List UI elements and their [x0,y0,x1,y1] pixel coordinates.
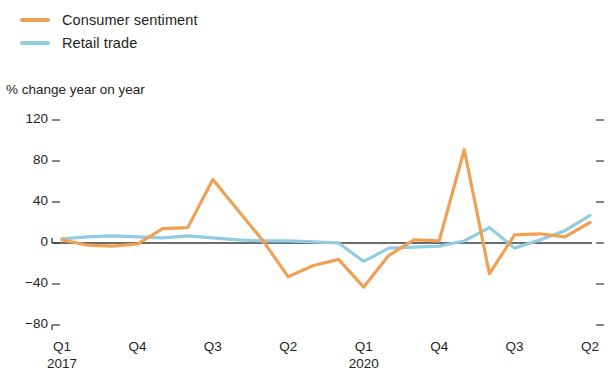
plot-area: 12080400−40−80 Q12017Q4Q3Q2Q12020Q4Q3Q2 [0,0,608,378]
x-tick-year-label: 2017 [47,356,77,371]
chart-canvas [0,0,608,378]
x-tick-label: Q4 [128,339,146,354]
y-tick-label: −80 [4,316,48,331]
y-tick-label: 40 [4,193,48,208]
x-tick-year-label: 2020 [349,356,379,371]
y-tick-label: 120 [4,111,48,126]
x-tick-label: Q3 [506,339,524,354]
x-tick-label: Q4 [430,339,448,354]
y-tick-label: 80 [4,152,48,167]
x-tick-label: Q1 [355,339,373,354]
x-tick-label: Q2 [279,339,297,354]
x-tick-label: Q1 [53,339,71,354]
series-line-consumer-sentiment [62,150,590,287]
x-tick-label: Q3 [204,339,222,354]
y-tick-label: 0 [4,234,48,249]
y-tick-label: −40 [4,275,48,290]
chart-figure: Consumer sentiment Retail trade % change… [0,0,608,378]
x-tick-label: Q2 [581,339,599,354]
